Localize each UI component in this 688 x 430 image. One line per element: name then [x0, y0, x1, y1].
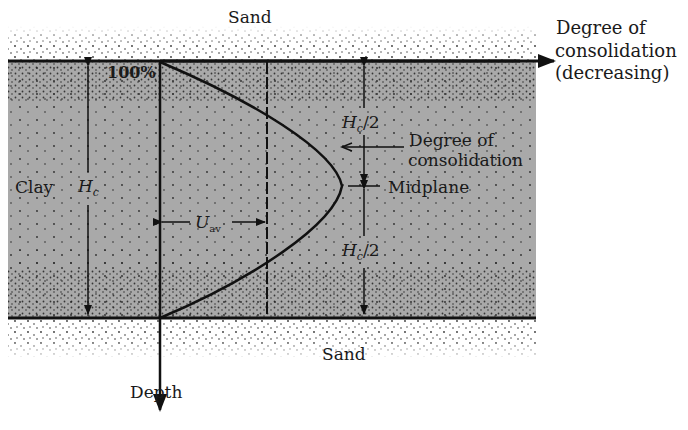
- x-axis-label-line1: Degree of: [556, 18, 646, 38]
- hc-subscript: c: [93, 186, 99, 199]
- x-axis-label-line3: (decreasing): [555, 63, 669, 83]
- degree-curve-label-line2: consolidation: [408, 150, 523, 170]
- hc-half-top-subscript: c: [357, 122, 363, 135]
- hc-half-top-tail: /2: [363, 112, 380, 132]
- hc-half-bottom-label: Hc/2: [342, 240, 380, 263]
- x-axis-label-line2: consolidation: [555, 41, 677, 61]
- hc-half-top-symbol: H: [342, 112, 357, 132]
- depth-label: Depth: [130, 382, 182, 402]
- sand-bottom-label: Sand: [322, 344, 366, 364]
- midplane-label: Midplane: [388, 177, 469, 197]
- hc-half-bottom-subscript: c: [357, 250, 363, 263]
- hc-half-bottom-tail: /2: [363, 240, 380, 260]
- sand-top-label: Sand: [228, 7, 272, 27]
- uav-label: Uav: [195, 212, 221, 235]
- hc-half-bottom-symbol: H: [342, 240, 357, 260]
- hc-half-top-label: Hc/2: [342, 112, 380, 135]
- sand-layer-bottom: [8, 319, 536, 360]
- hc-label: Hc: [78, 176, 99, 199]
- uav-symbol: U: [195, 212, 209, 232]
- percent-100-label: 100%: [107, 63, 156, 83]
- hc-symbol: H: [78, 176, 93, 196]
- clay-label: Clay: [15, 177, 53, 197]
- uav-subscript: av: [209, 223, 221, 234]
- degree-curve-label-line1: Degree of: [409, 130, 494, 150]
- sand-layer-top: [8, 26, 536, 61]
